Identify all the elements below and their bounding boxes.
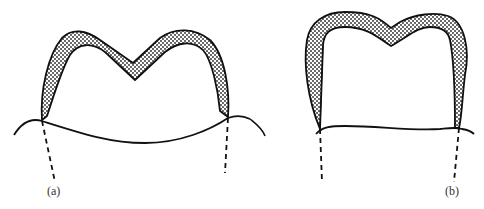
gum-line-a [14,116,250,143]
panel-a [14,30,250,182]
root-line-b-left [320,129,322,182]
root-line-b-right [454,128,459,182]
crown-shell-a [42,30,229,120]
panel-b [306,12,474,182]
figure-diagram [0,0,484,209]
gum-line-b [316,126,474,134]
root-line-a-right [225,118,228,173]
panel-label-b: (b) [445,184,459,199]
root-line-a-left [42,121,55,182]
arc-edge [250,119,265,136]
crown-shell-b [306,12,467,129]
panel-label-a: (a) [47,184,60,199]
figure-caption [40,204,460,209]
